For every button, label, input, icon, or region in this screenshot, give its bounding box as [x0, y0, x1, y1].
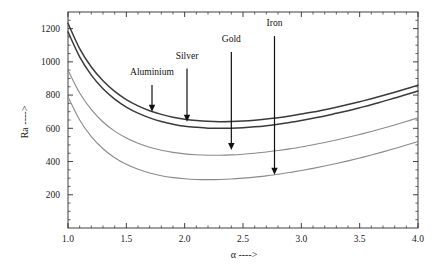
- y-tick-label: 800: [46, 90, 61, 100]
- annotation-label-silver: Silver: [176, 51, 200, 61]
- x-tick-label: 2.0: [179, 234, 191, 244]
- y-tick-label: 1200: [41, 24, 60, 34]
- annotation-label-gold: Gold: [222, 34, 241, 44]
- y-tick-label: 400: [46, 157, 61, 167]
- x-tick-label: 3.5: [354, 234, 366, 244]
- x-tick-label: 4.0: [412, 234, 424, 244]
- annotation-label-aluminium: Aluminium: [130, 67, 174, 77]
- y-tick-label: 1000: [41, 57, 60, 67]
- annotation-label-iron: Iron: [267, 18, 283, 28]
- x-tick-label: 1.5: [120, 234, 132, 244]
- y-tick-label: 200: [46, 190, 61, 200]
- y-tick-label: 600: [46, 124, 61, 134]
- y-axis-label: Ra ---->: [19, 105, 30, 138]
- x-axis-label: α ---->: [231, 249, 258, 260]
- x-tick-label: 1.0: [62, 234, 74, 244]
- x-tick-label: 3.0: [295, 234, 307, 244]
- figure-container: 1.01.52.02.53.03.54.0 200400600800100012…: [0, 0, 444, 271]
- x-tick-label: 2.5: [237, 234, 249, 244]
- chart-canvas: 1.01.52.02.53.03.54.0 200400600800100012…: [0, 0, 444, 271]
